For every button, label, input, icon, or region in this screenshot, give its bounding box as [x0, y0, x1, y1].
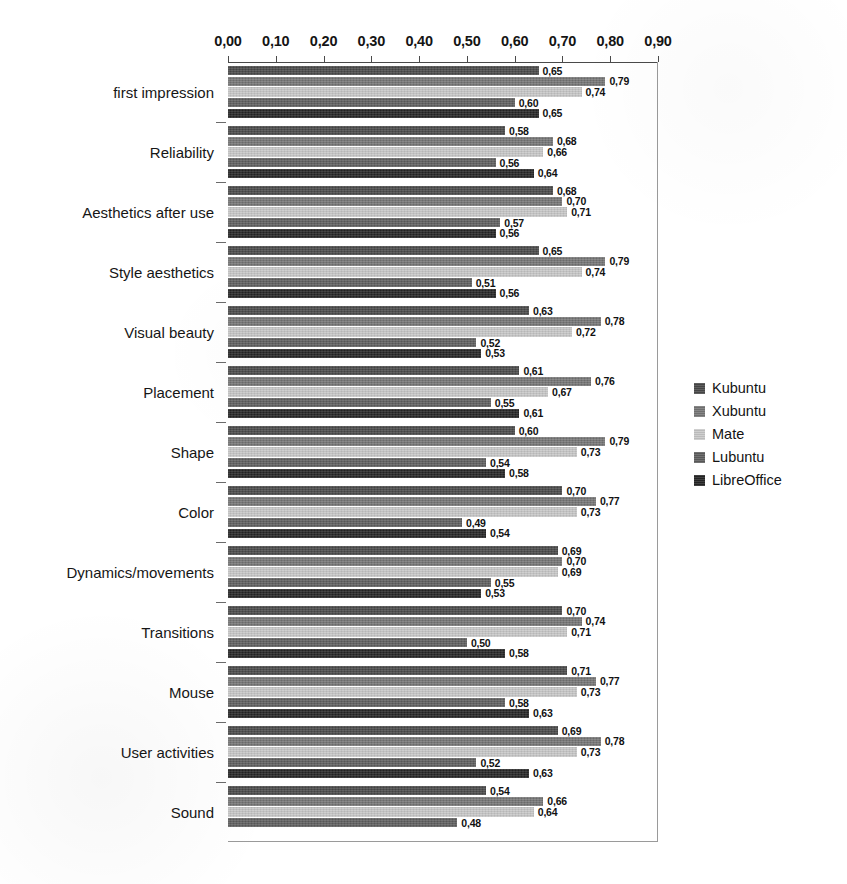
bar-value-label: 0,70 — [566, 485, 586, 497]
bar-libreoffice-mouse: 0,63 — [228, 709, 529, 719]
bar-xubuntu-user-activities: 0,78 — [228, 737, 601, 747]
bar-value-label: 0,61 — [523, 365, 543, 377]
bar-lubuntu-reliability: 0,56 — [228, 158, 496, 168]
bar-lubuntu-sound: 0,48 — [228, 818, 457, 828]
bars-layer: 0,650,790,740,600,650,580,680,660,560,64… — [228, 62, 658, 842]
bar-libreoffice-visual-beauty: 0,53 — [228, 349, 481, 359]
bar-xubuntu-visual-beauty: 0,78 — [228, 317, 601, 327]
bar-value-label: 0,76 — [595, 375, 615, 387]
bar-lubuntu-user-activities: 0,52 — [228, 758, 476, 768]
bar-mate-transitions: 0,71 — [228, 627, 567, 637]
bar-value-label: 0,53 — [485, 347, 505, 359]
bar-xubuntu-reliability: 0,68 — [228, 137, 553, 147]
category-tick — [216, 362, 226, 363]
bar-lubuntu-placement: 0,55 — [228, 398, 491, 408]
bar-fill — [228, 677, 596, 687]
bar-fill — [228, 797, 543, 807]
bar-value-label: 0,56 — [500, 227, 520, 239]
legend-item-xubuntu[interactable]: Xubuntu — [694, 401, 834, 421]
category-tick — [216, 782, 226, 783]
bar-fill — [228, 769, 529, 779]
bar-mate-dynamics-movements: 0,69 — [228, 567, 558, 577]
legend-swatch-icon — [694, 452, 705, 463]
bar-value-label: 0,60 — [519, 425, 539, 437]
bar-fill — [228, 497, 596, 507]
bar-libreoffice-aesthetics-after-use: 0,56 — [228, 229, 496, 239]
bar-fill — [228, 486, 562, 496]
bar-value-label: 0,63 — [533, 707, 553, 719]
bar-value-label: 0,73 — [581, 446, 601, 458]
legend-item-libreoffice[interactable]: LibreOffice — [694, 470, 834, 490]
bar-value-label: 0,73 — [581, 506, 601, 518]
legend-label: LibreOffice — [712, 472, 782, 488]
bar-libreoffice-reliability: 0,64 — [228, 169, 534, 179]
category-tick — [216, 722, 226, 723]
bar-fill — [228, 257, 605, 267]
bar-value-label: 0,79 — [609, 75, 629, 87]
category-tick — [216, 122, 226, 123]
bar-value-label: 0,65 — [543, 245, 563, 257]
x-tick-label: 0,50 — [453, 33, 480, 49]
bar-fill — [228, 229, 496, 239]
bar-value-label: 0,48 — [461, 817, 481, 829]
bar-xubuntu-aesthetics-after-use: 0,70 — [228, 197, 562, 207]
bar-mate-aesthetics-after-use: 0,71 — [228, 207, 567, 217]
bar-fill — [228, 627, 567, 637]
bar-fill — [228, 666, 567, 676]
bar-fill — [228, 169, 534, 179]
x-axis-tick-labels: 0,000,100,200,300,400,500,600,700,800,90 — [228, 33, 658, 53]
bar-kubuntu-transitions: 0,70 — [228, 606, 562, 616]
bar-libreoffice-user-activities: 0,63 — [228, 769, 529, 779]
bar-value-label: 0,64 — [538, 167, 558, 179]
bar-mate-color: 0,73 — [228, 507, 577, 517]
category-tick — [216, 482, 226, 483]
category-tick — [216, 242, 226, 243]
bar-fill — [228, 137, 553, 147]
legend-swatch-icon — [694, 429, 705, 440]
bar-value-label: 0,58 — [509, 647, 529, 659]
category-tick — [216, 602, 226, 603]
legend-label: Mate — [712, 426, 744, 442]
category-label: first impression — [113, 84, 214, 101]
bar-fill — [228, 387, 548, 397]
bar-fill — [228, 317, 601, 327]
bar-fill — [228, 638, 467, 648]
bar-mate-style-aesthetics: 0,74 — [228, 267, 582, 277]
bar-kubuntu-shape: 0,60 — [228, 426, 515, 436]
bar-libreoffice-style-aesthetics: 0,56 — [228, 289, 496, 299]
bar-fill — [228, 518, 462, 528]
x-tick-label: 0,70 — [549, 33, 576, 49]
bar-fill — [228, 469, 505, 479]
bar-fill — [228, 426, 515, 436]
x-tick-label: 0,90 — [644, 33, 671, 49]
bar-fill — [228, 278, 472, 288]
legend-item-kubuntu[interactable]: Kubuntu — [694, 378, 834, 398]
x-tick-mark — [658, 56, 659, 62]
bar-xubuntu-placement: 0,76 — [228, 377, 591, 387]
bar-kubuntu-visual-beauty: 0,63 — [228, 306, 529, 316]
bar-fill — [228, 306, 529, 316]
legend-swatch-icon — [694, 383, 705, 394]
bar-value-label: 0,58 — [509, 467, 529, 479]
x-tick-label: 0,00 — [214, 33, 241, 49]
bar-kubuntu-placement: 0,61 — [228, 366, 519, 376]
bar-xubuntu-color: 0,77 — [228, 497, 596, 507]
bar-value-label: 0,66 — [547, 146, 567, 158]
bar-fill — [228, 109, 539, 119]
bar-fill — [228, 98, 515, 108]
bar-xubuntu-style-aesthetics: 0,79 — [228, 257, 605, 267]
bar-value-label: 0,53 — [485, 587, 505, 599]
legend-item-mate[interactable]: Mate — [694, 424, 834, 444]
bar-lubuntu-transitions: 0,50 — [228, 638, 467, 648]
bar-fill — [228, 289, 496, 299]
legend-item-lubuntu[interactable]: Lubuntu — [694, 447, 834, 467]
bar-fill — [228, 807, 534, 817]
bar-value-label: 0,74 — [586, 266, 606, 278]
category-label: Transitions — [141, 624, 214, 641]
bar-value-label: 0,51 — [476, 277, 496, 289]
category-label: User activities — [121, 744, 214, 761]
bar-fill — [228, 158, 496, 168]
bar-fill — [228, 557, 562, 567]
bar-value-label: 0,63 — [533, 305, 553, 317]
bar-value-label: 0,54 — [490, 785, 510, 797]
